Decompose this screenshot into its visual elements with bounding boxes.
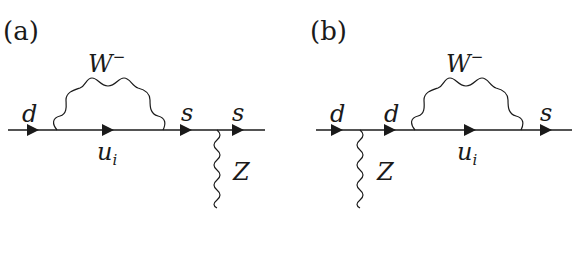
label-z-boson-b: Z: [376, 158, 395, 186]
label-u-fermion-b: ui: [457, 138, 477, 169]
label-d-in: d: [22, 100, 37, 128]
label-d-in-b: d: [330, 100, 345, 128]
label-w-boson-b: W−: [446, 48, 483, 78]
w-boson-loop-b: [412, 78, 523, 130]
label-u-fermion-a: ui: [97, 138, 117, 169]
label-z-boson-a: Z: [232, 158, 251, 186]
arrow-icon: [102, 124, 114, 136]
feynman-diagrams: (a) d W− ui s s Z (b) d d: [0, 0, 575, 270]
label-s-out-b: s: [540, 99, 552, 127]
arrow-icon: [464, 124, 476, 136]
label-s-mid: s: [181, 99, 193, 127]
panel-label-b: (b): [310, 16, 347, 46]
z-boson-line-b: [357, 130, 363, 208]
label-s-out: s: [232, 99, 244, 127]
w-boson-loop-a: [54, 78, 165, 130]
z-boson-line-a: [214, 130, 220, 208]
diagram-a: (a) d W− ui s s Z: [3, 16, 265, 208]
panel-label-a: (a): [3, 16, 39, 46]
label-w-boson-a: W−: [88, 48, 125, 78]
label-d-mid-b: d: [384, 100, 399, 128]
diagram-b: (b) d d W− ui s Z: [310, 16, 572, 208]
